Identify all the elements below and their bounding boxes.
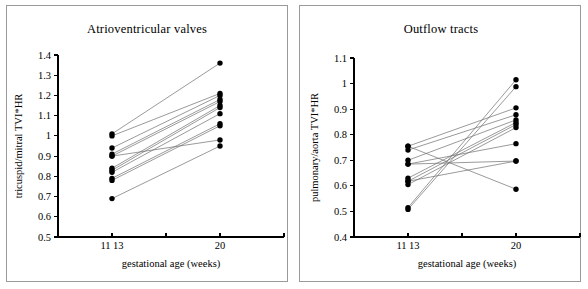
- chart-panel-outflow-tracts: Outflow tracts 1.110.90.80.70.60.50.411 …: [294, 0, 588, 289]
- y-tick-label: 0.5: [334, 206, 347, 217]
- y-tick-label: 1.3: [38, 70, 51, 81]
- series-connector-line: [408, 80, 516, 208]
- data-point: [109, 170, 114, 175]
- y-tick-label: 0.7: [38, 191, 51, 202]
- series-connector-line: [408, 161, 516, 164]
- series-connector-line: [112, 95, 220, 148]
- series-connector-line: [408, 87, 516, 210]
- chart-panel-atrioventricular-valves: Atrioventricular valves 1.41.31.21.110.9…: [0, 0, 294, 289]
- series-connector-line: [112, 124, 220, 179]
- data-point: [109, 133, 114, 138]
- data-point: [109, 178, 114, 183]
- data-point: [513, 112, 518, 117]
- series-connector-line: [112, 114, 220, 173]
- series-lines-group: [112, 63, 220, 198]
- data-point: [217, 137, 222, 142]
- data-point: [513, 186, 518, 191]
- data-point: [217, 60, 222, 65]
- series-connector-line: [112, 99, 220, 154]
- y-tick-label: 0.6: [334, 180, 347, 191]
- data-point: [405, 207, 410, 212]
- x-tick-label: 20: [215, 240, 226, 251]
- data-point: [513, 125, 518, 130]
- y-tick-label: 1.1: [38, 110, 51, 121]
- y-tick-label: 0.5: [38, 232, 51, 243]
- data-point: [217, 143, 222, 148]
- data-point: [405, 144, 410, 149]
- series-connector-line: [408, 128, 516, 185]
- data-point: [109, 145, 114, 150]
- data-point: [217, 123, 222, 128]
- x-tick-label: 20: [511, 240, 522, 251]
- y-tick-label: 0.9: [38, 151, 51, 162]
- y-tick-label: 0.8: [38, 171, 51, 182]
- y-tick-label: 1.4: [38, 50, 52, 61]
- y-tick-label: 0.7: [334, 155, 347, 166]
- data-point: [513, 141, 518, 146]
- chart-svg-left: 1.41.31.21.110.90.80.70.60.511 1320gesta…: [0, 0, 294, 289]
- data-point: [513, 84, 518, 89]
- x-axis-title: gestational age (weeks): [122, 258, 221, 270]
- data-point: [109, 153, 114, 158]
- series-connector-line: [408, 161, 516, 181]
- data-point: [405, 161, 410, 166]
- series-connector-line: [408, 108, 516, 146]
- data-point: [513, 158, 518, 163]
- y-tick-label: 1: [342, 78, 347, 89]
- data-point: [513, 77, 518, 82]
- data-points-group: [405, 77, 518, 212]
- data-point: [109, 196, 114, 201]
- y-axis-title: pulmonary/aorta TVI*HR: [309, 93, 320, 202]
- series-connector-line: [112, 108, 220, 171]
- series-lines-group: [408, 80, 516, 210]
- y-axis-title: tricuspid/mitral TVI*HR: [13, 94, 24, 199]
- figure-container: Atrioventricular valves 1.41.31.21.110.9…: [0, 0, 588, 289]
- series-connector-line: [112, 63, 220, 134]
- x-tick-label: 11 13: [100, 240, 123, 251]
- y-tick-label: 0.6: [38, 211, 51, 222]
- y-tick-label: 0.4: [334, 232, 348, 243]
- y-tick-label: 1.2: [38, 90, 51, 101]
- chart-svg-right: 1.110.90.80.70.60.50.411 1320gestational…: [294, 0, 588, 289]
- series-connector-line: [408, 115, 516, 150]
- data-point: [513, 105, 518, 110]
- y-tick-label: 1: [46, 130, 51, 141]
- data-point: [405, 179, 410, 184]
- data-point: [217, 105, 222, 110]
- series-connector-line: [408, 122, 516, 178]
- y-tick-label: 1.1: [334, 53, 347, 64]
- y-tick-label: 0.9: [334, 104, 347, 115]
- x-tick-label: 11 13: [396, 240, 419, 251]
- data-point: [217, 111, 222, 116]
- x-axis-title: gestational age (weeks): [418, 258, 517, 270]
- y-tick-label: 0.8: [334, 129, 347, 140]
